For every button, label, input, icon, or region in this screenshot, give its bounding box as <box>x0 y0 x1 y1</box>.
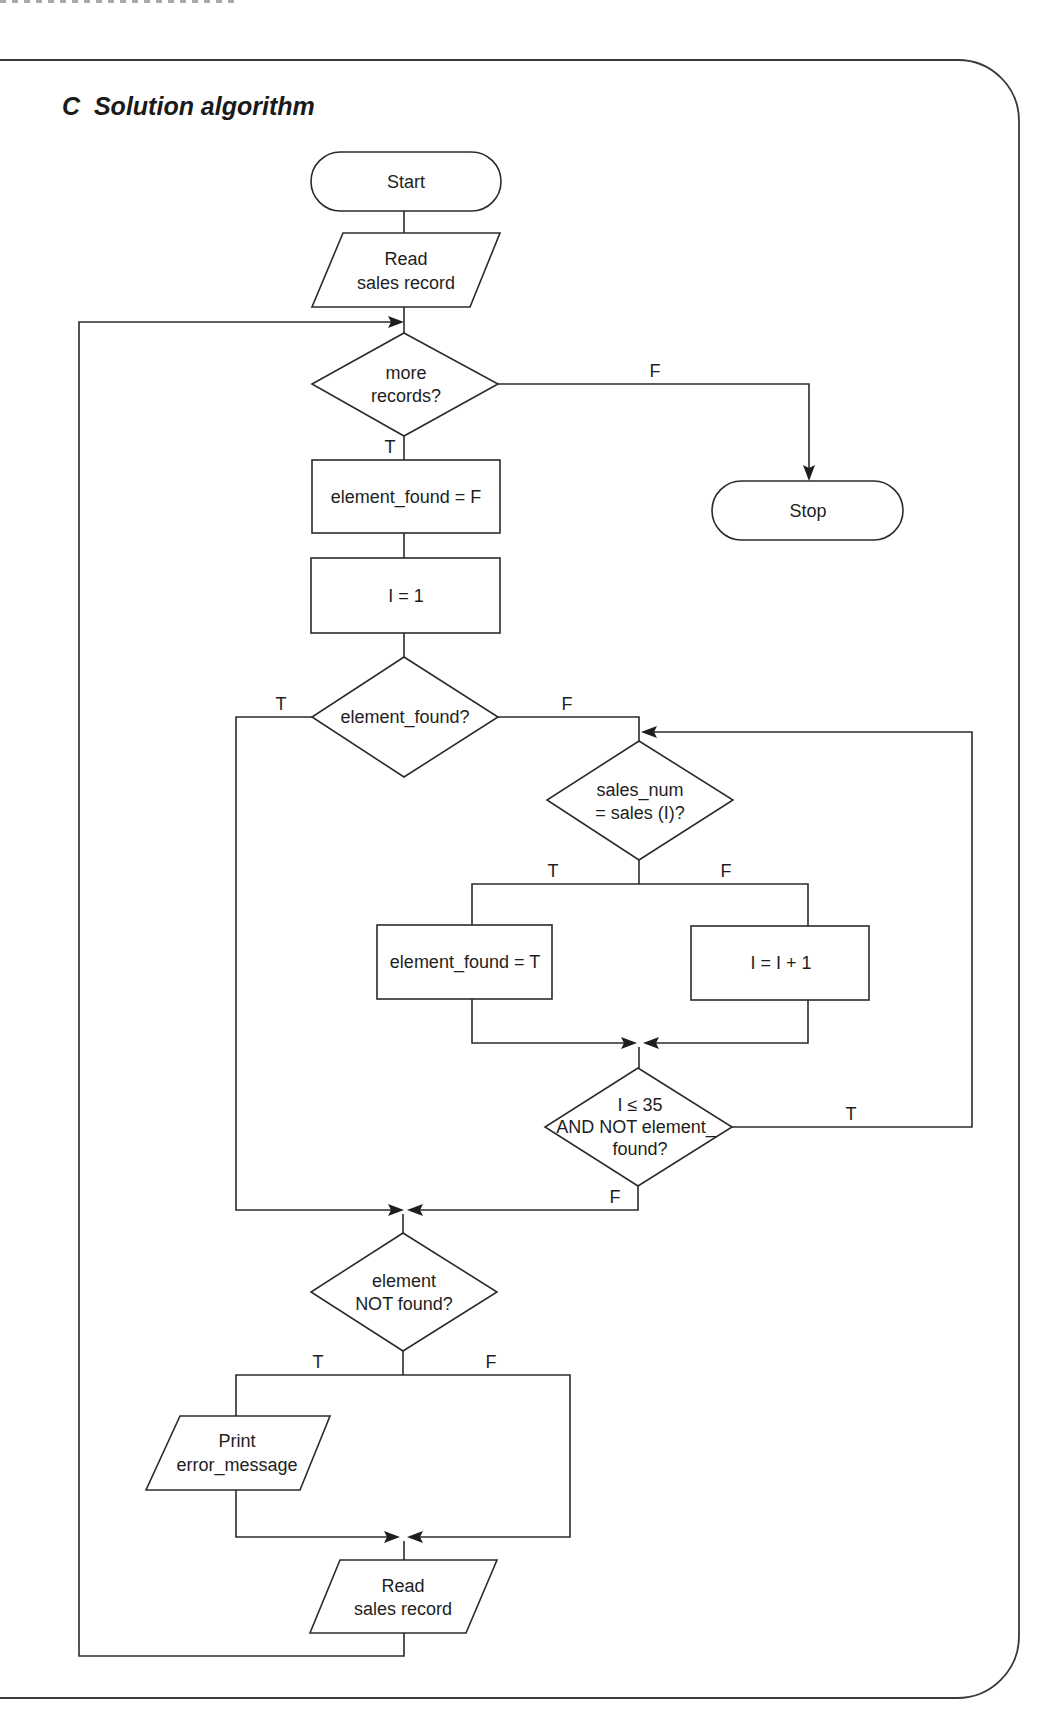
loop-condition-decision: I ≤ 35 AND NOT element_ found? <box>545 1068 732 1186</box>
read-next-sales-record-input: Read sales record <box>310 1560 497 1633</box>
init-index-process: I = 1 <box>311 558 500 633</box>
branch-label-false: F <box>650 361 661 381</box>
svg-text:Read: Read <box>381 1576 424 1596</box>
svg-text:NOT found?: NOT found? <box>355 1294 453 1314</box>
svg-text:Stop: Stop <box>789 501 826 521</box>
branch-label-false: F <box>610 1187 621 1207</box>
compare-sales-decision: sales_num = sales (I)? <box>547 741 733 860</box>
svg-text:sales record: sales record <box>354 1599 452 1619</box>
svg-text:sales_num: sales_num <box>596 780 683 801</box>
branch-label-true: T <box>276 694 287 714</box>
element-found-decision: element_found? <box>312 657 498 777</box>
svg-text:found?: found? <box>612 1139 667 1159</box>
flowchart: Start Read sales record more records? F … <box>0 0 1060 1730</box>
increment-index-process: I = I + 1 <box>691 926 869 1000</box>
svg-text:I = I + 1: I = I + 1 <box>750 953 811 973</box>
svg-text:records?: records? <box>371 386 441 406</box>
svg-text:= sales (I)?: = sales (I)? <box>595 803 685 823</box>
svg-text:I ≤ 35: I ≤ 35 <box>618 1095 663 1115</box>
branch-label-true: T <box>385 437 396 457</box>
svg-text:element_found = T: element_found = T <box>390 952 540 973</box>
svg-text:I = 1: I = 1 <box>388 586 424 606</box>
branch-label-false: F <box>486 1352 497 1372</box>
branch-label-false: F <box>721 861 732 881</box>
section-frame <box>0 60 1019 1698</box>
svg-text:element_found = F: element_found = F <box>331 487 482 508</box>
svg-text:error_message: error_message <box>176 1455 297 1476</box>
print-error-message-output: Print error_message <box>146 1416 330 1490</box>
svg-text:more: more <box>385 363 426 383</box>
set-element-found-true-process: element_found = T <box>377 925 552 999</box>
start-terminal: Start <box>311 152 501 211</box>
svg-text:sales record: sales record <box>357 273 455 293</box>
branch-label-false: F <box>562 694 573 714</box>
svg-text:Read: Read <box>384 249 427 269</box>
svg-text:AND NOT element_: AND NOT element_ <box>556 1117 717 1138</box>
svg-text:Start: Start <box>387 172 425 192</box>
read-sales-record-input: Read sales record <box>312 233 500 307</box>
svg-text:Print: Print <box>218 1431 255 1451</box>
set-element-found-false-process: element_found = F <box>312 460 500 533</box>
svg-text:element: element <box>372 1271 436 1291</box>
branch-label-true: T <box>846 1104 857 1124</box>
element-not-found-decision: element NOT found? <box>311 1233 497 1351</box>
stop-terminal: Stop <box>712 481 903 540</box>
more-records-decision: more records? <box>312 333 498 436</box>
svg-text:element_found?: element_found? <box>340 707 469 728</box>
branch-label-true: T <box>313 1352 324 1372</box>
branch-label-true: T <box>548 861 559 881</box>
